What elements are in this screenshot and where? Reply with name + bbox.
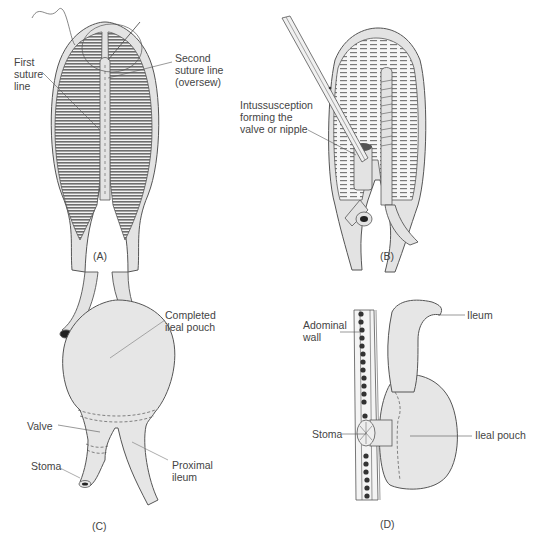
caption-b: (B) xyxy=(380,250,394,262)
panel-d-illustration xyxy=(340,300,472,500)
caption-d: (D) xyxy=(380,518,395,530)
label-stoma-c: Stoma xyxy=(31,460,61,472)
label-ileal-pouch: Ileal pouch xyxy=(475,429,526,441)
label-proximal-ileum: Proximal ileum xyxy=(172,459,213,483)
label-intussusception: Intussusception forming the valve or nip… xyxy=(240,99,313,135)
panel-a-illustration xyxy=(32,8,172,338)
label-second-suture-line: Second suture line (oversew) xyxy=(175,52,223,88)
ileal-pouch-diagram xyxy=(0,0,544,543)
label-ileum: Ileum xyxy=(467,309,493,321)
label-completed-pouch: Completed ileal pouch xyxy=(165,309,216,333)
panel-b-illustration xyxy=(282,16,426,272)
label-abdominal-wall: Adominal wall xyxy=(303,319,347,343)
label-valve: Valve xyxy=(27,420,53,432)
label-first-suture-line: First suture line xyxy=(14,56,43,92)
panel-c-illustration xyxy=(58,300,175,505)
caption-c: (C) xyxy=(92,520,107,532)
label-stoma-d: Stoma xyxy=(312,428,342,440)
caption-a: (A) xyxy=(93,250,107,262)
